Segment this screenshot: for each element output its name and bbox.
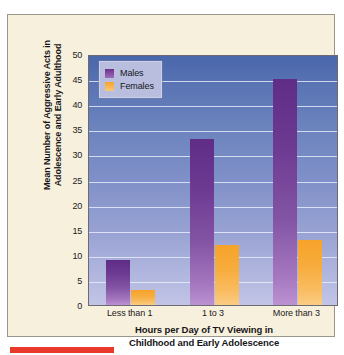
y-axis-tick-label: 45	[56, 75, 82, 85]
x-axis-tick-label: Less than 1	[107, 308, 152, 318]
bar	[106, 260, 130, 305]
bar	[190, 139, 214, 305]
bar	[215, 245, 239, 305]
legend-item-females: Females	[105, 80, 154, 92]
figure-frame: Mean Number of Aggressive Acts in Adoles…	[7, 14, 335, 337]
x-axis-title-line-1: Hours per Day of TV Viewing in	[68, 324, 340, 337]
legend-swatch-males-icon	[105, 69, 114, 78]
y-axis-tick-label: 0	[56, 301, 82, 311]
y-axis-tick-label: 25	[56, 176, 82, 186]
y-axis-tick-label: 20	[56, 201, 82, 211]
gridline	[89, 131, 337, 132]
bar	[298, 240, 322, 305]
legend: Males Females	[99, 61, 162, 98]
y-axis-tick-label: 50	[56, 50, 82, 60]
y-axis-tick-label: 40	[56, 100, 82, 110]
legend-label-females: Females	[120, 81, 154, 91]
y-axis-title-line-1: Mean Number of Aggressive Acts in	[42, 40, 54, 190]
bar	[273, 79, 297, 305]
bar	[131, 290, 155, 305]
gridline	[89, 106, 337, 107]
y-axis-tick-label: 35	[56, 125, 82, 135]
legend-swatch-females-icon	[105, 82, 114, 91]
x-axis-tick-labels: Less than 11 to 3More than 3	[88, 308, 338, 322]
y-axis-tick-labels: 05101520253035404550	[56, 55, 82, 306]
legend-item-males: Males	[105, 67, 154, 79]
y-axis-tick-label: 15	[56, 226, 82, 236]
legend-label-males: Males	[120, 68, 144, 78]
y-axis-tick-label: 5	[56, 276, 82, 286]
red-marker-bar	[10, 347, 114, 353]
x-axis-title: Hours per Day of TV Viewing in Childhood…	[68, 324, 340, 349]
plot-area: Males Females	[88, 55, 338, 306]
y-axis-tick-label: 30	[56, 150, 82, 160]
x-axis-tick-label: 1 to 3	[202, 308, 224, 318]
y-axis-tick-label: 10	[56, 251, 82, 261]
x-axis-tick-label: More than 3	[273, 308, 320, 318]
